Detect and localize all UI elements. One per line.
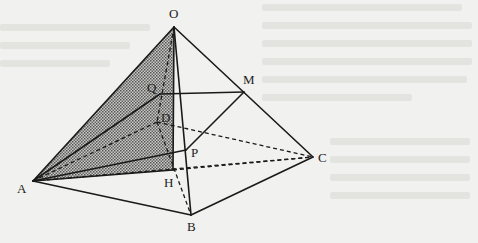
- edge-MP: [186, 92, 244, 150]
- label-M: M: [243, 72, 255, 87]
- pyramid-figure: OABCDHPQM: [0, 0, 478, 243]
- label-O: O: [169, 6, 178, 21]
- label-B: B: [187, 219, 196, 234]
- label-C: C: [318, 150, 327, 165]
- pyramid-diagram: OABCDHPQM: [0, 0, 478, 243]
- edge-OB: [174, 27, 191, 215]
- edge-OH: [173, 27, 174, 170]
- label-D: D: [161, 110, 170, 125]
- label-P: P: [191, 145, 198, 160]
- label-Q: Q: [147, 80, 157, 95]
- label-H: H: [164, 175, 173, 190]
- label-A: A: [17, 181, 27, 196]
